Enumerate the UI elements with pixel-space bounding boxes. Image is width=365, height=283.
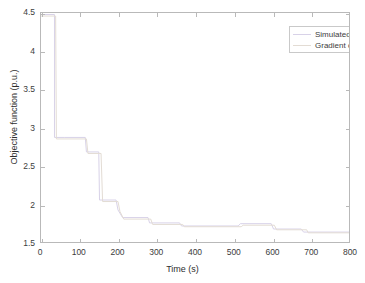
x-tick <box>196 239 197 243</box>
x-tick-label: 400 <box>188 247 202 257</box>
y-axis-label: Objective function (p.u.) <box>9 47 19 187</box>
x-tick-top <box>235 13 236 17</box>
x-tick <box>42 239 43 243</box>
x-tick <box>235 239 236 243</box>
plot-area: Simulated annealingGradient descent <box>40 12 350 243</box>
x-tick-label: 500 <box>227 247 241 257</box>
y-tick <box>41 129 45 130</box>
x-tick <box>80 239 81 243</box>
x-axis-label: Time (s) <box>0 264 365 274</box>
x-tick-top <box>80 13 81 17</box>
legend-label: Gradient descent <box>315 41 350 51</box>
legend-entry-2[interactable]: Gradient descent <box>290 40 350 51</box>
y-tick-right <box>346 206 350 207</box>
y-tick-label: 2 <box>10 200 35 210</box>
x-tick-label: 700 <box>304 247 318 257</box>
x-tick-top <box>196 13 197 17</box>
y-tick-label: 4.5 <box>10 7 35 17</box>
x-tick-top <box>274 13 275 17</box>
x-tick <box>274 239 275 243</box>
legend-entry-1[interactable]: Simulated annealing <box>290 29 350 40</box>
x-tick <box>350 239 351 243</box>
x-tick-label: 300 <box>149 247 163 257</box>
x-tick-label: 200 <box>110 247 124 257</box>
legend-line-swatch <box>293 45 311 46</box>
y-tick-label: 1.5 <box>10 238 35 248</box>
legend-label: Simulated annealing <box>315 30 350 40</box>
x-tick-top <box>312 13 313 17</box>
y-tick-right <box>346 243 350 244</box>
y-tick <box>41 206 45 207</box>
legend-line-swatch <box>293 34 311 35</box>
y-tick <box>41 14 45 15</box>
x-tick <box>312 239 313 243</box>
y-tick <box>41 52 45 53</box>
x-tick <box>157 239 158 243</box>
y-tick <box>41 243 45 244</box>
x-tick-top <box>350 13 351 17</box>
y-tick-right <box>346 129 350 130</box>
y-tick-right <box>346 90 350 91</box>
x-tick-label: 800 <box>343 247 357 257</box>
figure-canvas: Simulated annealingGradient descent 0100… <box>0 0 365 283</box>
x-tick-top <box>119 13 120 17</box>
legend[interactable]: Simulated annealingGradient descent <box>289 26 350 53</box>
x-tick-label: 100 <box>72 247 86 257</box>
x-tick-label: 0 <box>38 247 43 257</box>
y-tick-right <box>346 14 350 15</box>
y-tick <box>41 90 45 91</box>
y-tick <box>41 167 45 168</box>
x-tick-label: 600 <box>265 247 279 257</box>
y-tick-right <box>346 167 350 168</box>
x-tick-top <box>157 13 158 17</box>
x-tick <box>119 239 120 243</box>
